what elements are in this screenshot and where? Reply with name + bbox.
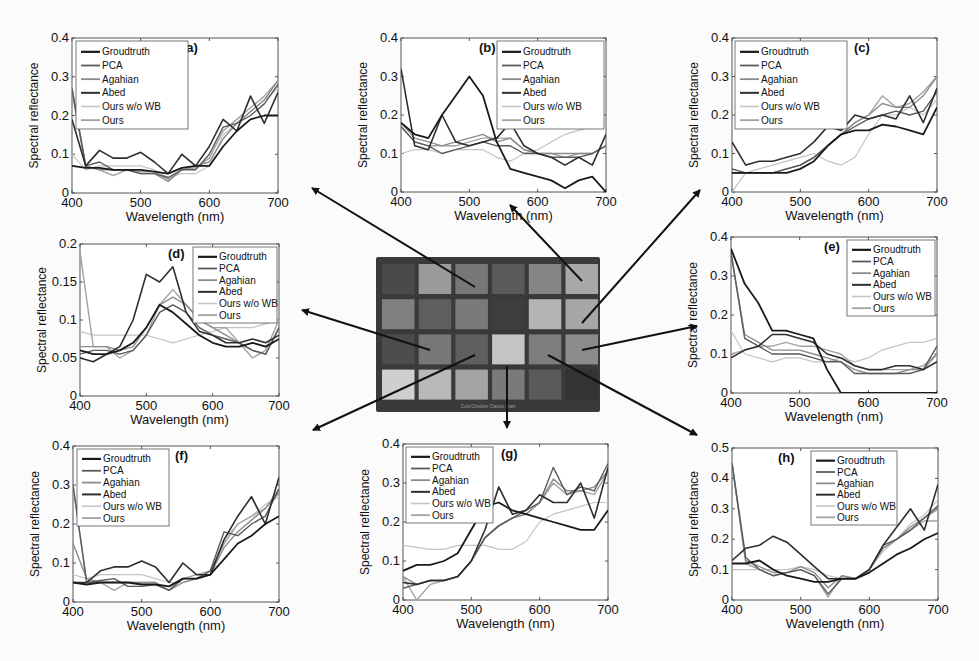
color-patch xyxy=(382,264,415,294)
legend-entry: PCA xyxy=(219,263,240,274)
color-patch xyxy=(529,299,562,329)
y-tick-label: 0 xyxy=(722,592,729,607)
legend-entry: Ours w/o WB xyxy=(837,501,896,512)
x-tick-label: 600 xyxy=(202,398,224,413)
y-tick-label: 0.3 xyxy=(380,69,398,84)
x-tick-label: 500 xyxy=(789,395,811,410)
y-tick-label: 0.3 xyxy=(51,69,69,84)
color-patch xyxy=(455,299,488,329)
y-tick-label: 0.1 xyxy=(59,312,77,327)
legend-entry: Abed xyxy=(102,87,125,98)
legend-entry: Ours w/o WB xyxy=(102,101,161,112)
x-tick-label: 700 xyxy=(597,602,619,617)
x-axis-label: Wavelength (nm) xyxy=(456,616,555,631)
y-tick-label: 0.1 xyxy=(711,146,729,161)
x-axis-label: Wavelength (nm) xyxy=(126,209,225,224)
x-tick-label: 500 xyxy=(790,602,812,617)
legend-entry: Abed xyxy=(873,279,896,290)
legend-entry: Ours xyxy=(837,512,859,523)
x-axis-label: Wavelength (nm) xyxy=(130,412,229,427)
color-patch xyxy=(529,370,562,400)
legend-entry: PCA xyxy=(103,465,124,476)
panel-label: (d) xyxy=(168,246,185,261)
x-tick-label: 700 xyxy=(595,194,617,209)
legend-entry: PCA xyxy=(761,60,782,71)
legend-entry: Groudtruth xyxy=(523,46,571,57)
legend-entry: Ours w/o WB xyxy=(761,101,820,112)
legend-entry: PCA xyxy=(523,60,544,71)
legend-entry: Abed xyxy=(523,87,546,98)
legend: GroudtruthPCAAgahianAbedOurs w/o WBOurs xyxy=(406,447,493,523)
y-tick-label: 0 xyxy=(70,388,77,403)
legend: GroudtruthPCAAgahianAbedOurs w/o WBOurs xyxy=(497,41,604,129)
y-tick-label: 0 xyxy=(722,184,729,199)
legend-entry: Abed xyxy=(219,286,242,297)
legend-entry: Groudtruth xyxy=(873,244,921,255)
y-tick-label: 0.2 xyxy=(711,531,729,546)
color-patch xyxy=(455,334,488,364)
y-tick-label: 0.2 xyxy=(59,236,77,251)
y-tick-label: 0.4 xyxy=(711,30,729,45)
x-axis-label: Wavelength (nm) xyxy=(786,616,885,631)
legend-entry: Abed xyxy=(103,489,126,500)
color-patch xyxy=(492,370,524,400)
x-tick-label: 700 xyxy=(927,602,949,617)
legend-entry: Groudtruth xyxy=(219,251,267,262)
color-patch xyxy=(529,264,562,294)
x-tick-label: 600 xyxy=(529,602,551,617)
legend-entry: Agahian xyxy=(103,477,140,488)
y-axis-label: Spectral reflectance xyxy=(28,471,42,577)
y-tick-label: 0.2 xyxy=(711,107,729,122)
y-tick-label: 0.3 xyxy=(710,268,728,283)
y-tick-label: 0 xyxy=(63,594,70,609)
legend-entry: Agahian xyxy=(837,478,874,489)
legend-entry: PCA xyxy=(432,463,453,474)
y-tick-label: 0.1 xyxy=(380,146,398,161)
panel-label: (c) xyxy=(854,40,870,55)
panel-label: (g) xyxy=(501,446,518,461)
x-tick-label: 600 xyxy=(527,194,549,209)
legend-entry: Agahian xyxy=(873,268,910,279)
y-tick-label: 0 xyxy=(62,185,69,200)
x-axis-label: Wavelength (nm) xyxy=(454,208,553,223)
color-patch xyxy=(566,299,599,329)
figure-canvas: ColorChecker Classic chart40050060070000… xyxy=(0,0,979,661)
color-patch xyxy=(566,334,599,364)
color-patch xyxy=(382,334,415,364)
y-tick-label: 0.3 xyxy=(52,477,70,492)
y-axis-label: Spectral reflectance xyxy=(358,469,372,575)
y-axis-label: Spectral reflectance xyxy=(356,62,370,168)
legend-entry: Ours w/o WB xyxy=(219,298,278,309)
legend-entry: PCA xyxy=(102,60,123,71)
x-tick-label: 700 xyxy=(926,395,948,410)
chart-panel-e: 40050060070000.10.20.30.4Wavelength (nm)… xyxy=(686,229,948,424)
y-tick-label: 0.4 xyxy=(380,30,398,45)
y-tick-label: 0.4 xyxy=(52,438,70,453)
x-tick-label: 500 xyxy=(135,398,157,413)
y-tick-label: 0.4 xyxy=(51,30,69,45)
chart-panel-d: 40050060070000.050.10.150.2Wavelength (n… xyxy=(35,236,290,427)
chart-panel-g: 40050060070000.10.20.30.4Wavelength (nm)… xyxy=(358,436,619,631)
legend-entry: Ours w/o WB xyxy=(523,101,582,112)
legend-entry: Abed xyxy=(837,489,860,500)
legend-entry: Agahian xyxy=(102,74,139,85)
legend: GroudtruthPCAAgahianAbedOurs w/o WBOurs xyxy=(77,449,169,526)
y-axis-label: Spectral reflectance xyxy=(27,62,41,168)
y-tick-label: 0 xyxy=(721,385,728,400)
color-patch xyxy=(455,370,488,400)
y-tick-label: 0.1 xyxy=(711,562,729,577)
color-patch xyxy=(492,299,524,329)
panel-label: (h) xyxy=(778,450,795,465)
y-tick-label: 0.2 xyxy=(52,516,70,531)
legend-entry: Ours xyxy=(219,310,241,321)
y-tick-label: 0.3 xyxy=(711,501,729,516)
x-tick-label: 700 xyxy=(268,604,290,619)
y-tick-label: 0.4 xyxy=(710,229,728,244)
y-tick-label: 0.2 xyxy=(51,108,69,123)
x-tick-label: 600 xyxy=(858,194,880,209)
y-tick-label: 0.05 xyxy=(52,350,77,365)
legend-entry: Ours xyxy=(103,513,125,524)
color-checker: ColorChecker Classic chart xyxy=(376,257,600,412)
x-tick-label: 600 xyxy=(199,604,221,619)
y-tick-label: 0.1 xyxy=(382,553,400,568)
